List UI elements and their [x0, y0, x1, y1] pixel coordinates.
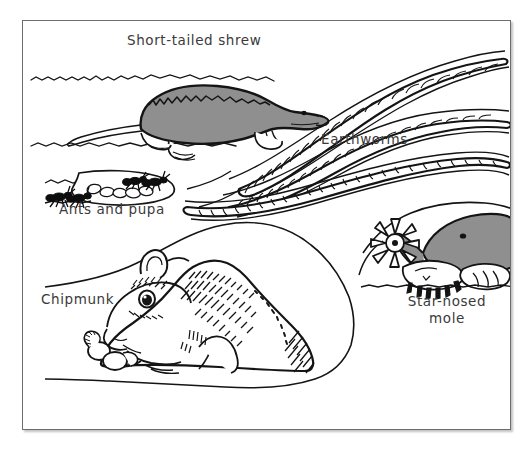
figure-frame: Short-tailed shrew Earthworms Ants and p… [22, 20, 511, 430]
illustration-root: Short-tailed shrew Earthworms Ants and p… [0, 0, 532, 450]
star-nose-icon [371, 219, 419, 267]
mole-eye-icon [460, 233, 466, 238]
burrow-scene-drawing [23, 21, 511, 430]
shrew-eye-icon [301, 111, 306, 115]
